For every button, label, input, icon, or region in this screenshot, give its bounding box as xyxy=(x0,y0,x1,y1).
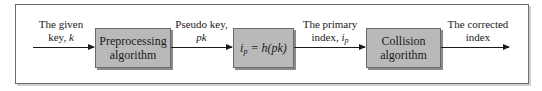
hash-expression: = h(pk) xyxy=(247,41,286,55)
label-text: index, xyxy=(311,31,341,43)
arrow-input-to-preprocessing xyxy=(33,47,94,48)
label-text: key, xyxy=(48,31,69,43)
arrow-collision-to-output xyxy=(441,47,509,48)
label-pseudo-key: Pseudo key, pk xyxy=(170,18,233,44)
label-pseudo-key-line2: pk xyxy=(170,31,233,44)
box-label-line1: Collision xyxy=(380,34,427,48)
label-corrected-index: The corrected index xyxy=(442,18,514,44)
arrow-preprocessing-to-hash xyxy=(171,47,232,48)
variable-k: k xyxy=(69,31,74,43)
preprocessing-algorithm-box: Preprocessing algorithm xyxy=(95,28,171,68)
label-primary-index-line1: The primary xyxy=(295,18,365,31)
label-corrected-index-line2: index xyxy=(442,31,514,44)
box-label-line2: algorithm xyxy=(380,48,427,62)
box-label-line1: Preprocessing xyxy=(99,34,166,48)
label-given-key-line2: key, k xyxy=(30,31,92,44)
label-primary-index: The primary index, ip xyxy=(295,18,365,44)
box-label-line2: algorithm xyxy=(99,48,166,62)
label-primary-index-line2: index, ip xyxy=(295,31,365,44)
label-given-key: The given key, k xyxy=(30,18,92,44)
subscript-p: p xyxy=(345,36,349,45)
label-corrected-index-line1: The corrected xyxy=(442,18,514,31)
label-pseudo-key-line1: Pseudo key, xyxy=(170,18,233,31)
collision-algorithm-box: Collision algorithm xyxy=(366,28,441,68)
hash-formula: ip = h(pk) xyxy=(240,41,287,55)
hash-function-box: ip = h(pk) xyxy=(233,28,294,68)
label-given-key-line1: The given xyxy=(30,18,92,31)
variable-pk: pk xyxy=(196,31,206,43)
arrow-hash-to-collision xyxy=(294,47,365,48)
